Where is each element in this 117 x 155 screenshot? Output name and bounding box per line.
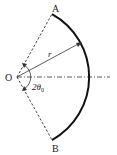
label-a: A [52, 3, 60, 14]
sector-diagram: A B O r 2θ0 [0, 0, 117, 155]
angle-arrow-bottom-icon [22, 86, 27, 91]
label-r: r [48, 49, 52, 59]
label-b: B [52, 143, 59, 154]
label-o: O [5, 72, 12, 83]
angle-subscript: 0 [41, 87, 44, 93]
angle-arrow-top-icon [22, 63, 27, 68]
label-angle: 2θ0 [32, 82, 44, 93]
